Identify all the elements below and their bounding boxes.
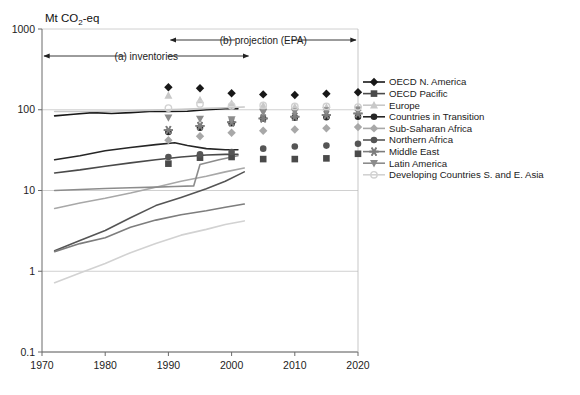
triangle-up-marker-icon	[164, 91, 172, 98]
series-line-8	[55, 221, 245, 283]
series-line-3	[55, 143, 238, 160]
circle-marker-icon	[228, 149, 235, 156]
square-marker-icon	[260, 156, 267, 163]
x-tick-label: 1990	[157, 359, 181, 371]
diamond-marker-icon	[196, 84, 204, 92]
x-tick-label: 1980	[94, 359, 118, 371]
diamond-marker-icon	[370, 78, 378, 86]
square-marker-icon	[165, 160, 172, 167]
x-tick-label: 2020	[346, 359, 370, 371]
annotation-label-inventories: (a) inventories	[115, 51, 178, 62]
diamond-marker-icon	[227, 89, 235, 97]
series-line-1	[55, 154, 238, 173]
legend-label: Latin America	[389, 158, 448, 169]
circle-marker-icon	[371, 137, 378, 144]
circle-marker-icon	[292, 143, 299, 150]
legend-item-5[interactable]: Northern Africa	[363, 134, 454, 145]
legend-label: Northern Africa	[389, 134, 454, 145]
annotations	[44, 40, 356, 56]
diamond-marker-icon	[164, 83, 172, 91]
y-tick-label: 0.1	[20, 346, 35, 358]
circle-marker-icon	[197, 151, 204, 158]
square-marker-icon	[323, 155, 330, 162]
x-tick-label: 2010	[283, 359, 307, 371]
x-tick-label: 1970	[30, 359, 54, 371]
series-line-5	[55, 172, 245, 251]
diamond-marker-icon	[322, 90, 330, 98]
circle-marker-icon	[371, 114, 378, 121]
legend-label: Developing Countries S. and E. Asia	[389, 169, 544, 180]
chart-figure: 10001001010.1197019801990200020102020Mt …	[0, 0, 580, 395]
legend-label: OECD N. America	[389, 76, 467, 87]
diamond-marker-icon	[354, 123, 362, 131]
axes	[38, 29, 358, 356]
y-tick-label: 100	[17, 103, 35, 115]
square-marker-icon	[292, 156, 299, 163]
legend-item-1[interactable]: OECD Pacific	[363, 88, 448, 99]
legend-item-6[interactable]: Middle East	[363, 146, 439, 157]
diamond-marker-icon	[354, 88, 362, 96]
asterisk-marker-icon	[369, 148, 378, 156]
diamond-marker-icon	[291, 125, 299, 133]
legend-label: Europe	[389, 100, 420, 111]
series-markers	[164, 83, 363, 167]
y-tick-label: 10	[23, 184, 35, 196]
legend-item-2[interactable]: Europe	[363, 100, 420, 111]
x-tick-label: 2000	[220, 359, 244, 371]
circle-marker-icon	[323, 142, 330, 149]
diamond-marker-icon	[322, 124, 330, 132]
triangle-down-marker-icon	[196, 116, 204, 123]
triangle-down-marker-icon	[259, 109, 267, 116]
legend-item-7[interactable]: Latin America	[363, 158, 448, 169]
y-tick-label: 1000	[12, 23, 36, 35]
legend-item-0[interactable]: OECD N. America	[363, 76, 467, 87]
diamond-marker-icon	[259, 90, 267, 98]
chart-title: Mt CO2-eq	[45, 12, 99, 27]
diamond-marker-icon	[291, 91, 299, 99]
legend-label: Countries in Transition	[389, 111, 484, 122]
circle-marker-icon	[355, 140, 362, 147]
legend-item-8[interactable]: Developing Countries S. and E. Asia	[363, 169, 544, 180]
diamond-marker-icon	[370, 124, 378, 132]
annotation-label-projection: (b) projection (EPA)	[220, 35, 307, 46]
legend-label: Middle East	[389, 146, 439, 157]
series-marker-group-4	[164, 123, 362, 144]
circle-marker-icon	[260, 145, 267, 152]
triangle-down-marker-icon	[164, 114, 172, 121]
legend-label: OECD Pacific	[389, 88, 448, 99]
legend-item-4[interactable]: Sub-Saharan Africa	[363, 123, 473, 134]
series-line-6	[55, 204, 245, 252]
series-lines	[55, 107, 245, 283]
series-line-4	[55, 168, 245, 208]
chart-title-suffix: -eq	[83, 12, 100, 24]
circle-marker-icon	[165, 154, 172, 161]
diamond-marker-icon	[227, 128, 235, 136]
legend-item-3[interactable]: Countries in Transition	[363, 111, 484, 122]
series-marker-group-0	[164, 83, 362, 99]
diamond-marker-icon	[196, 132, 204, 140]
legend: OECD N. AmericaOECD PacificEuropeCountri…	[363, 76, 544, 180]
square-marker-icon	[371, 90, 378, 97]
y-tick-label: 1	[29, 265, 35, 277]
square-marker-icon	[355, 150, 362, 157]
legend-label: Sub-Saharan Africa	[389, 123, 473, 134]
diamond-marker-icon	[259, 127, 267, 135]
series-marker-group-1	[165, 150, 361, 166]
